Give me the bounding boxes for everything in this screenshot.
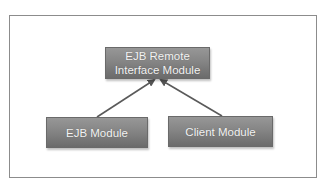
node-ejb-module: EJB Module (46, 117, 148, 148)
node-label: Client Module (185, 125, 255, 139)
diagram-canvas: EJB Remote Interface Module EJB Module C… (0, 0, 328, 188)
diagram-frame (9, 15, 317, 178)
node-ejb-remote-interface-module: EJB Remote Interface Module (105, 47, 210, 79)
node-label: EJB Module (66, 126, 128, 140)
node-client-module: Client Module (168, 116, 273, 147)
node-label-line-1: EJB Remote (125, 49, 190, 63)
node-label-line-2: Interface Module (115, 63, 201, 77)
